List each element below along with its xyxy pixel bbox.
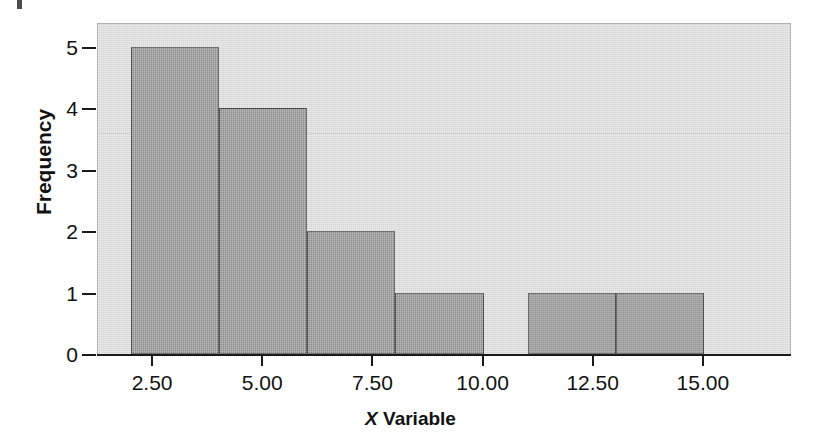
y-axis-tick-mark <box>82 293 96 295</box>
y-axis-tick-label: 2 <box>50 221 78 242</box>
y-axis-tick-label: 0 <box>50 344 78 365</box>
y-axis-tick-mark <box>82 108 96 110</box>
bar-noise-overlay <box>396 294 482 353</box>
x-axis-tick-label: 10.00 <box>443 372 523 393</box>
x-axis-tick-mark <box>482 355 484 366</box>
histogram-bar <box>528 293 616 354</box>
histogram-bar <box>307 231 395 354</box>
histogram-bar <box>219 108 307 354</box>
x-axis-line <box>97 354 791 356</box>
y-axis-tick-label: 5 <box>50 37 78 58</box>
x-axis-title: X Variable <box>0 408 821 430</box>
y-axis-tick-mark <box>82 47 96 49</box>
bar-noise-overlay <box>132 48 218 353</box>
histogram-bar <box>131 47 219 354</box>
bar-noise-overlay <box>220 109 306 353</box>
plot-area <box>97 23 791 355</box>
x-axis-tick-mark <box>371 355 373 366</box>
y-axis-tick-mark <box>82 354 96 356</box>
x-axis-tick-label: 15.00 <box>663 372 743 393</box>
x-axis-tick-label: 2.50 <box>112 372 192 393</box>
x-axis-tick-mark <box>151 355 153 366</box>
x-axis-title-rest: Variable <box>378 408 456 429</box>
bar-noise-overlay <box>617 294 703 353</box>
scan-artifact-mark <box>17 0 22 9</box>
x-axis-title-variable: X <box>365 408 378 429</box>
y-axis-tick-label: 3 <box>50 160 78 181</box>
y-axis-tick-label: 4 <box>50 98 78 119</box>
y-axis-tick-label: 1 <box>50 283 78 304</box>
y-axis-tick-labels: 012345 <box>44 0 78 445</box>
histogram-bar <box>616 293 704 354</box>
bar-noise-overlay <box>529 294 615 353</box>
y-axis-tick-mark <box>82 231 96 233</box>
bar-noise-overlay <box>308 232 394 353</box>
x-axis-tick-mark <box>702 355 704 366</box>
x-axis-tick-label: 7.50 <box>332 372 412 393</box>
histogram-bar <box>395 293 483 354</box>
x-axis-tick-mark <box>592 355 594 366</box>
y-axis-tick-mark <box>82 170 96 172</box>
x-axis-tick-label: 12.50 <box>553 372 633 393</box>
histogram-screenshot: Frequency 012345 2.505.007.5010.0012.501… <box>0 0 821 445</box>
x-axis-tick-mark <box>261 355 263 366</box>
x-axis-tick-label: 5.00 <box>222 372 302 393</box>
